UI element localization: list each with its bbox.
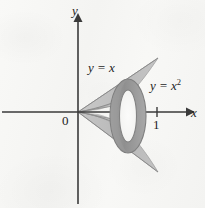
solid-of-revolution-figure: y = x y = x2 y x 0 1 — [0, 0, 205, 208]
parabola-label-exponent: 2 — [177, 77, 181, 87]
figure-canvas — [0, 0, 205, 208]
washer-inner-hole — [120, 90, 137, 142]
curve-label-line: y = x — [88, 61, 115, 74]
y-axis-label: y — [72, 4, 78, 17]
curve-label-parabola: y = x2 — [150, 78, 181, 92]
x-tick-label-one: 1 — [153, 118, 160, 131]
x-axis-label: x — [191, 106, 197, 119]
origin-label: 0 — [62, 114, 69, 127]
washer-cross-section — [110, 79, 146, 153]
parabola-label-base: y = x — [150, 78, 177, 93]
